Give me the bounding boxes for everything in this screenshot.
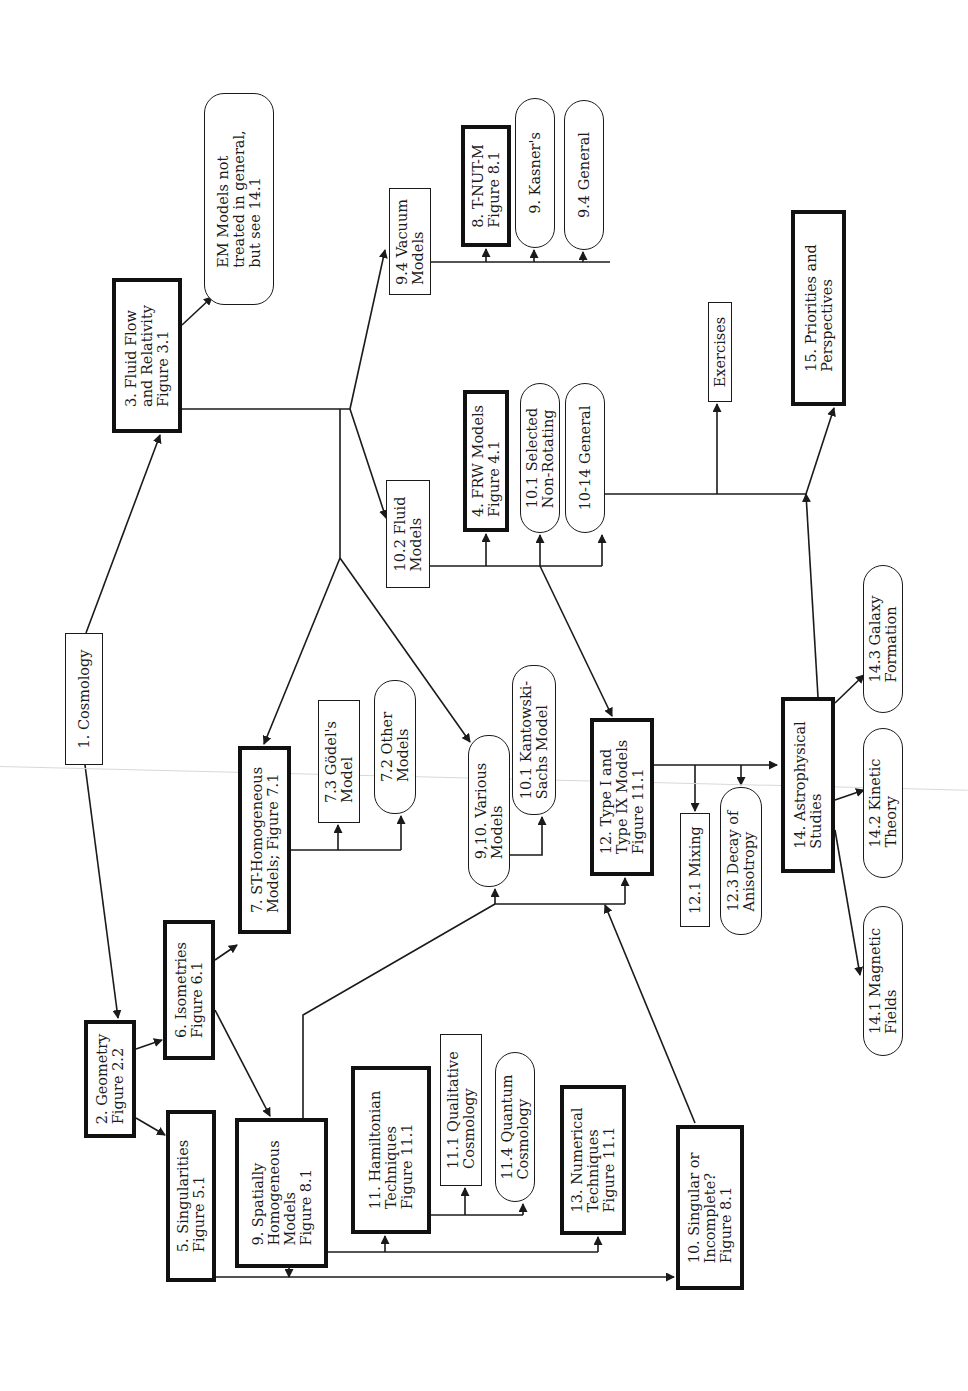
node-label-line: Model	[339, 721, 355, 803]
node-label: 4. FRW ModelsFigure 4.1	[470, 405, 502, 517]
node-n12_1: 12.1 Mixing	[680, 813, 710, 927]
node-label: 7.2 OtherModels	[379, 712, 411, 782]
node-n2: 2. GeometryFigure 2.2	[84, 1020, 136, 1138]
node-label-line: 1. Cosmology	[76, 649, 92, 748]
node-label-line: Cosmology	[515, 1074, 531, 1179]
node-label-line: Figure 11.1	[601, 1108, 617, 1213]
arrow-connector	[136, 1040, 162, 1049]
node-label-line: 9,10. Various	[473, 763, 489, 859]
node-n10_2: 10.2 FluidModels	[386, 480, 430, 588]
node-label-line: 7. ST-Homogeneous	[249, 767, 265, 913]
node-label: 9.4 General	[576, 132, 592, 218]
node-label-line: Sachs Model	[534, 681, 550, 799]
node-label: 10.2 FluidModels	[392, 497, 424, 572]
node-n7_3: 7.3 Gödel'sModel	[318, 700, 360, 823]
node-label: EM Models nottreated in general,but see …	[215, 130, 263, 267]
node-n10_14: 10-14 General	[565, 383, 605, 533]
node-label-line: 13. Numerical	[569, 1108, 585, 1213]
node-label-line: Figure 4.1	[486, 405, 502, 517]
node-label-line: Theory	[883, 759, 899, 848]
node-label-line: 9. Kasner's	[527, 132, 543, 214]
node-n14_2: 14.2 KineticTheory	[863, 728, 903, 878]
node-n12: 12. Type I andType IX ModelsFigure 11.1	[590, 718, 654, 876]
node-label-line: 6. Isometries	[173, 942, 189, 1038]
node-label-line: 9.4 General	[576, 132, 592, 218]
node-label-line: 5. Singularities	[175, 1140, 191, 1252]
node-label-line: Models	[395, 712, 411, 782]
node-label-line: Exercises	[712, 317, 728, 388]
node-label-line: 14. Astrophysical	[792, 721, 808, 848]
node-n9k: 9. Kasner's	[515, 98, 555, 248]
node-label-line: 4. FRW Models	[470, 405, 486, 517]
node-label: 12. Type I andType IX ModelsFigure 11.1	[598, 740, 646, 855]
node-label-line: 11. Hamiltonian	[367, 1091, 383, 1210]
node-label-line: 3. Fluid Flow	[123, 305, 139, 407]
node-n11_4: 11.4 QuantumCosmology	[495, 1052, 535, 1202]
node-label-line: Figure 8.1	[718, 1152, 734, 1263]
node-label-line: Figure 8.1	[486, 144, 502, 228]
node-label: 14.2 KineticTheory	[867, 759, 899, 848]
node-label-line: Perspectives	[819, 244, 835, 372]
node-n10_1k: 10.1 Kantowski-Sachs Model	[512, 665, 556, 815]
node-label-line: and Relativity	[139, 305, 155, 407]
node-label-line: Figure 11.1	[630, 740, 646, 855]
node-label: 9,10. VariousModels	[473, 763, 505, 859]
node-label: 9. SpatiallyHomogeneousModelsFigure 8.1	[250, 1140, 314, 1245]
arrow-connector	[215, 945, 237, 960]
node-label-line: Figure 11.1	[399, 1091, 415, 1210]
node-label: 6. IsometriesFigure 6.1	[173, 942, 205, 1038]
node-label: 11.1 QualitativeCosmology	[445, 1051, 477, 1169]
node-n4: 4. FRW ModelsFigure 4.1	[463, 390, 509, 532]
node-label-line: Cosmology	[461, 1051, 477, 1169]
node-label: 9. Kasner's	[527, 132, 543, 214]
node-label: Exercises	[712, 317, 728, 388]
arrow-connector	[350, 250, 385, 409]
node-label-line: but see 14.1	[247, 130, 263, 267]
arrow-connector	[85, 765, 118, 1018]
node-label: 5. SingularitiesFigure 5.1	[175, 1140, 207, 1252]
node-label-line: EM Models not	[215, 130, 231, 267]
node-label: 14. AstrophysicalStudies	[792, 721, 824, 848]
node-label-line: Models	[410, 198, 426, 284]
node-label-line: Figure 5.1	[191, 1140, 207, 1252]
node-n6: 6. IsometriesFigure 6.1	[163, 920, 215, 1060]
node-label: 12.1 Mixing	[687, 826, 703, 914]
arrow-connector	[215, 1010, 270, 1116]
arrow-connector	[510, 817, 542, 855]
node-n3: 3. Fluid Flowand RelativityFigure 3.1	[112, 278, 182, 433]
arrow-connector	[806, 494, 818, 697]
node-n7: 7. ST-HomogeneousModels; Figure 7.1	[238, 746, 291, 934]
node-label-line: Figure 8.1	[298, 1140, 314, 1245]
node-label-line: 10.1 Kantowski-	[518, 681, 534, 799]
arrow-connector	[835, 790, 864, 800]
node-label-line: treated in general,	[231, 130, 247, 267]
arrow-connector	[350, 409, 386, 518]
node-label: 10.1 SelectedNon-Rotating	[524, 408, 556, 508]
node-label: 10-14 General	[577, 406, 593, 511]
node-label-line: Non-Rotating	[540, 408, 556, 508]
node-label-line: Anisotropy	[741, 811, 757, 912]
node-n14_1: 14.1 MagneticFields	[863, 906, 903, 1056]
node-n14_3: 14.3 GalaxyFormation	[863, 565, 903, 713]
node-label-line: 10.1 Selected	[524, 408, 540, 508]
node-label-line: 15. Priorities and	[803, 244, 819, 372]
node-label-line: 8. T-NUT-M	[470, 144, 486, 228]
node-label: 7.3 Gödel'sModel	[323, 721, 355, 803]
node-label: 14.1 MagneticFields	[867, 928, 899, 1034]
node-label-line: 10. Singular or	[686, 1152, 702, 1263]
arrow-connector	[835, 675, 864, 703]
node-label: 11.4 QuantumCosmology	[499, 1074, 531, 1179]
node-label: 3. Fluid Flowand RelativityFigure 3.1	[123, 305, 171, 407]
node-label-line: 9. Spatially	[250, 1140, 266, 1245]
node-n15: 15. Priorities andPerspectives	[791, 210, 846, 406]
node-label-line: Incomplete?	[702, 1152, 718, 1263]
node-label-line: 9.4 Vacuum	[394, 198, 410, 284]
node-label-line: Techniques	[585, 1108, 601, 1213]
node-label: 13. NumericalTechniquesFigure 11.1	[569, 1108, 617, 1213]
node-label-line: 2. Geometry	[94, 1034, 110, 1125]
node-label-line: 14.3 Galaxy	[867, 596, 883, 683]
node-n1: 1. Cosmology	[65, 633, 103, 765]
node-n14: 14. AstrophysicalStudies	[781, 697, 835, 873]
node-n11_1: 11.1 QualitativeCosmology	[440, 1034, 482, 1186]
node-n10s: 10. Singular orIncomplete?Figure 8.1	[676, 1125, 744, 1290]
